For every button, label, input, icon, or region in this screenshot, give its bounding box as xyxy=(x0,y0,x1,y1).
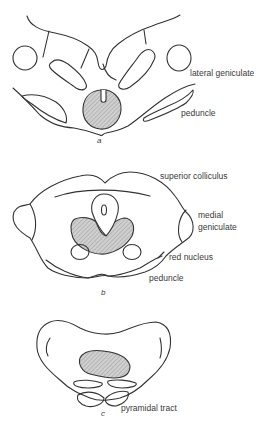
lateral-geniculate-left xyxy=(13,46,37,70)
lateral-geniculate-right xyxy=(167,45,191,71)
brainstem-sections-diagram xyxy=(0,0,267,428)
red-nucleus-right xyxy=(123,245,141,260)
section-a-right-lobe xyxy=(119,50,155,90)
label-medial-geniculate-line2: geniculate xyxy=(198,222,237,232)
section-c-hatched-core xyxy=(79,351,130,378)
section-a-left-lobe xyxy=(49,60,86,90)
section-a xyxy=(13,15,195,136)
label-peduncle-a: peduncle xyxy=(181,108,216,118)
section-a-top-outline xyxy=(27,15,180,69)
label-superior-colliculus: superior colliculus xyxy=(160,171,228,181)
medial-geniculate-left xyxy=(30,204,36,240)
panel-letter-b: b xyxy=(101,288,105,297)
label-pyramidal-tract: pyramidal tract xyxy=(121,403,177,413)
section-c xyxy=(37,320,171,406)
label-medial-geniculate-line1: medial xyxy=(198,210,223,220)
label-peduncle-b: peduncle xyxy=(149,273,184,283)
section-c-left-band xyxy=(74,380,103,388)
section-b xyxy=(13,172,193,278)
label-red-nucleus: red nucleus xyxy=(169,252,213,262)
section-c-right-band xyxy=(108,380,137,388)
panel-letter-c: c xyxy=(101,409,105,418)
medial-geniculate-right xyxy=(179,210,186,242)
panel-letter-a: a xyxy=(97,136,101,145)
label-lateral-geniculate: lateral geniculate xyxy=(190,68,254,78)
